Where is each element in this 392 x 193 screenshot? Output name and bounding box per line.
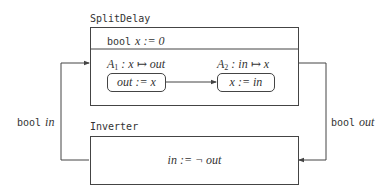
- task-a2-signature: : in ↦ x: [231, 57, 269, 71]
- task-a2-index: 2: [224, 63, 228, 72]
- wire-out-keyword: bool: [331, 117, 355, 128]
- inverter-body: in := ¬ out: [168, 153, 222, 168]
- task-a1-signature: : x ↦ out: [121, 57, 165, 71]
- state-declaration: bool x := 0: [107, 32, 165, 48]
- state-keyword: bool: [107, 36, 131, 47]
- wire-in-keyword: bool: [17, 117, 41, 128]
- splitdelay-title: SplitDelay: [90, 14, 150, 24]
- task-a2-body: x := in: [217, 73, 275, 92]
- task-a1-index: 1: [114, 63, 118, 72]
- inverter-title: Inverter: [90, 122, 138, 132]
- diagram-canvas: SplitDelay bool x := 0 A1 : x ↦ out out …: [0, 0, 392, 193]
- task-a1-label: A1 : x ↦ out: [107, 58, 165, 72]
- inverter-box: in := ¬ out: [90, 136, 299, 185]
- wire-out: [298, 63, 326, 160]
- wire-in-var: in: [45, 115, 54, 129]
- wire-in: [61, 63, 89, 160]
- task-a1-body: out := x: [107, 73, 166, 92]
- task-a2-label: A2 : in ↦ x: [217, 58, 269, 72]
- wire-in-label: bool in: [17, 113, 54, 129]
- state-expr: x := 0: [135, 34, 164, 48]
- wire-out-label: bool out: [331, 113, 374, 129]
- wire-out-var: out: [359, 115, 374, 129]
